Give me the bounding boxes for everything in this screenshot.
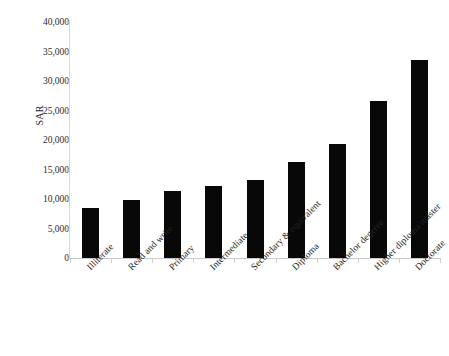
bar — [205, 186, 222, 258]
x-axis-tick-mark — [440, 259, 441, 263]
x-axis-tick-mark — [234, 259, 235, 263]
x-axis-tick-mark — [358, 259, 359, 263]
bar-chart: SAR 40,00035,00030,00025,00020,00015,000… — [0, 0, 449, 356]
bar — [288, 162, 305, 258]
y-axis-tick-label: 10,000 — [5, 194, 69, 204]
bar — [329, 144, 346, 258]
y-axis-tick-label: 40,000 — [5, 17, 69, 27]
x-axis-tick-mark — [70, 259, 71, 263]
x-axis-tick-mark — [317, 259, 318, 263]
y-axis-tick-label: 0 — [5, 253, 69, 263]
x-axis-tick-mark — [193, 259, 194, 263]
y-axis-tick-label: 20,000 — [5, 135, 69, 145]
y-axis-tick-label: 15,000 — [5, 165, 69, 175]
bar — [123, 200, 140, 258]
y-axis-tick-labels: 40,00035,00030,00025,00020,00015,00010,0… — [0, 0, 69, 356]
y-axis-tick-label: 30,000 — [5, 76, 69, 86]
bar — [82, 208, 99, 258]
y-axis-tick-label: 25,000 — [5, 106, 69, 116]
y-axis-tick-label: 35,000 — [5, 47, 69, 57]
x-axis-tick-mark — [276, 259, 277, 263]
x-axis-tick-mark — [111, 259, 112, 263]
bar — [247, 180, 264, 258]
x-axis-tick-mark — [152, 259, 153, 263]
x-axis-tick-mark — [399, 259, 400, 263]
y-axis-tick-label: 5,000 — [5, 224, 69, 234]
